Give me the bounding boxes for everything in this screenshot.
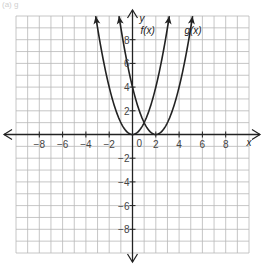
y-tick-label: 8 [124,35,130,46]
y-tick-label: 2 [124,106,130,117]
y-tick-label: −8 [118,224,130,235]
y-tick-label: −2 [118,153,130,164]
y-axis-label: y [139,13,146,24]
g-label: g(x) [184,25,201,36]
x-tick-label: 6 [200,139,206,150]
y-tick-label: −6 [118,201,130,212]
x-tick-label: −6 [57,139,69,150]
x-tick-label: −8 [34,139,46,150]
x-tick-label: −4 [80,139,92,150]
y-tick-label: −4 [118,177,130,188]
x-tick-label: −2 [103,139,115,150]
axes [4,10,260,262]
f-label: f(x) [140,25,154,36]
x-tick-label: 2 [153,139,159,150]
y-tick-label: 4 [124,82,130,93]
x-tick-label: 4 [176,139,182,150]
y-tick-label: 6 [124,58,130,69]
coordinate-plane: −8−6−4−202468−8−6−4−22468xyf(x)g(x) [0,0,264,271]
x-tick-label: 8 [223,139,229,150]
origin-label: 0 [137,138,143,149]
x-axis-label: x [246,137,253,148]
